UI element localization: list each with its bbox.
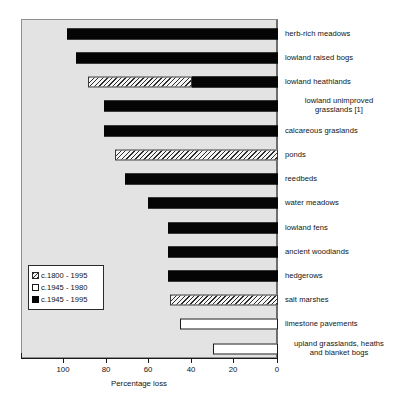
x-tick-80 — [106, 358, 107, 363]
x-tick-label-80: 80 — [102, 365, 111, 374]
bar-segment-solid — [104, 126, 278, 137]
bar-segment-solid — [76, 53, 278, 64]
category-label-limestone-pavements: limestone pavements — [285, 319, 393, 328]
x-tick-label-60: 60 — [144, 365, 153, 374]
x-tick-0 — [277, 358, 278, 363]
bar-segment-solid — [168, 223, 278, 234]
category-label-line: upland grasslands, heaths — [285, 339, 393, 348]
legend-label: c.1945 - 1980 — [41, 283, 87, 292]
legend-item-c1800-1995: c.1800 - 1995 — [32, 270, 99, 281]
x-tick-40 — [191, 358, 192, 363]
bar-segment-hatched — [115, 150, 278, 161]
category-label-hedgerows: hedgerows — [285, 271, 393, 280]
category-label-water-meadows: water meadows — [285, 198, 393, 207]
bar-segment-solid — [67, 29, 278, 40]
legend-swatch-solid-icon — [32, 296, 39, 303]
category-label-lowland-heathlands: lowland heathlands — [285, 77, 393, 86]
category-label-lowland-unimproved-grasslands: lowland unimproved grasslands [1] — [285, 96, 393, 115]
bar-segment-solid — [168, 247, 278, 258]
legend-swatch-hatched-icon — [32, 272, 39, 279]
bar-segment-solid — [148, 198, 278, 209]
category-label-lowland-raised-bogs: lowland raised bogs — [285, 53, 393, 62]
category-label-upland-grasslands-heaths-blanket-bogs: upland grasslands, heaths and blanket bo… — [285, 339, 393, 358]
x-tick-20 — [233, 358, 234, 363]
bar-segment-solid — [104, 101, 278, 112]
legend-label: c.1800 - 1995 — [41, 271, 87, 280]
bar-segment-solid — [125, 174, 278, 185]
percentage-loss-bar-chart: herb-rich meadows lowland raised bogs lo… — [0, 0, 394, 406]
legend-item-c1945-1980: c.1945 - 1980 — [32, 282, 99, 293]
category-label-line: lowland unimproved — [285, 96, 393, 105]
x-axis-line — [21, 358, 278, 359]
x-tick-label-100: 100 — [56, 365, 69, 374]
x-tick-label-40: 40 — [187, 365, 196, 374]
bar-segment-solid — [168, 271, 278, 282]
category-label-salt-marshes: salt marshes — [285, 295, 393, 304]
category-label-calcareous-graslands: calcareous graslands — [285, 126, 393, 135]
legend-swatch-open-icon — [32, 284, 39, 291]
bar-segment-open — [180, 319, 278, 330]
category-label-ancient-woodlands: ancient woodlands — [285, 247, 393, 256]
category-label-line: and blanket bogs — [285, 348, 393, 357]
category-label-ponds: ponds — [285, 150, 393, 159]
legend-item-c1945-1995: c.1945 - 1995 — [32, 294, 99, 305]
bar-segment-solid — [192, 77, 278, 88]
category-label-herb-rich-meadows: herb-rich meadows — [285, 29, 393, 38]
category-label-lowland-fens: lowland fens — [285, 223, 393, 232]
bar-segment-hatched — [170, 295, 278, 306]
category-label-reedbeds: reedbeds — [285, 174, 393, 183]
x-tick-label-20: 20 — [229, 365, 238, 374]
x-tick-60 — [148, 358, 149, 363]
bar-segment-open — [213, 344, 278, 355]
axis-end-cap-left — [21, 353, 22, 358]
legend: c.1800 - 1995 c.1945 - 1980 c.1945 - 199… — [28, 265, 104, 310]
x-tick-label-0: 0 — [275, 365, 279, 374]
legend-label: c.1945 - 1995 — [41, 295, 87, 304]
category-label-line: grasslands [1] — [285, 105, 393, 114]
x-tick-100 — [63, 358, 64, 363]
bar-segment-hatched — [88, 77, 192, 88]
x-axis-title: Percentage loss — [0, 379, 278, 388]
